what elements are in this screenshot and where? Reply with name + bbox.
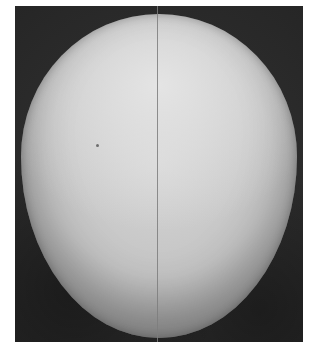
egg-photograph xyxy=(15,6,303,342)
egg xyxy=(21,14,297,338)
egg-speck xyxy=(96,144,99,147)
vertical-center-line xyxy=(157,6,158,342)
